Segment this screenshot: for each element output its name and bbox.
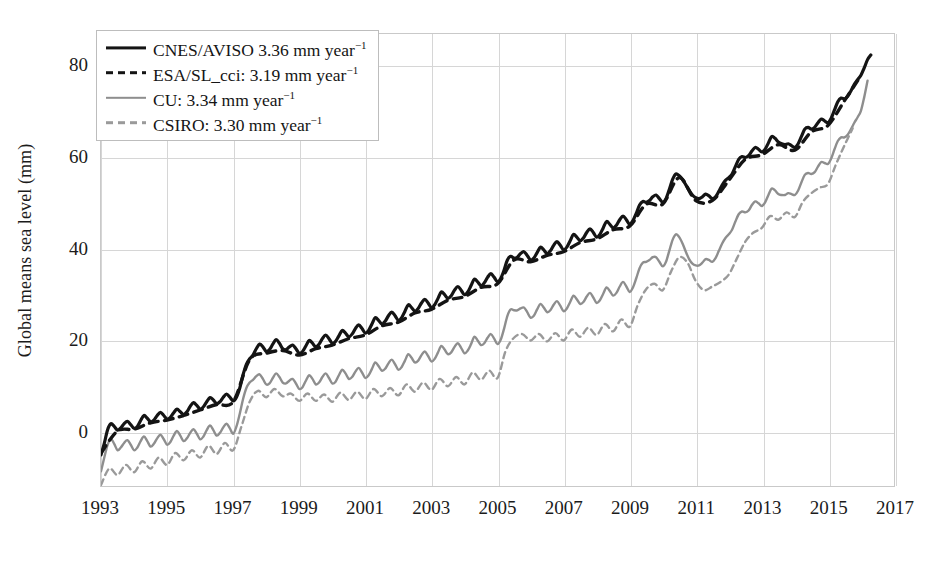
chart-legend: CNES/AVISO 3.36 mm year−1ESA/SL_cci: 3.1… xyxy=(96,30,379,141)
x-tick-label: 1999 xyxy=(280,497,318,519)
legend-label: ESA/SL_cci: 3.19 mm year−1 xyxy=(153,61,358,85)
x-tick-label: 2003 xyxy=(412,497,450,519)
x-axis-tick-labels: 1993199519971999200120032005200720092011… xyxy=(0,497,951,537)
chart-figure: Global means sea level (mm) 020406080 19… xyxy=(0,0,951,565)
x-tick-label: 2005 xyxy=(479,497,517,519)
x-tick-label: 1995 xyxy=(147,497,185,519)
x-tick-label: 2017 xyxy=(876,497,914,519)
legend-label: CU: 3.34 mm year−1 xyxy=(153,86,295,110)
x-tick-label: 1993 xyxy=(81,497,119,519)
x-tick-label: 2007 xyxy=(545,497,583,519)
y-tick-label: 60 xyxy=(48,146,88,168)
legend-key-icon xyxy=(106,42,146,54)
legend-key-icon xyxy=(106,92,146,104)
x-tick-label: 1997 xyxy=(214,497,252,519)
legend-key-icon xyxy=(106,117,146,129)
y-tick-label: 80 xyxy=(48,54,88,76)
x-tick-label: 2001 xyxy=(346,497,384,519)
gridline-vertical xyxy=(896,34,897,486)
legend-label: CSIRO: 3.30 mm year−1 xyxy=(153,111,322,135)
y-axis-tick-labels: 020406080 xyxy=(42,0,88,565)
legend-item: ESA/SL_cci: 3.19 mm year−1 xyxy=(106,63,367,82)
legend-label: CNES/AVISO 3.36 mm year−1 xyxy=(153,36,367,60)
y-tick-label: 40 xyxy=(48,238,88,260)
x-tick-label: 2013 xyxy=(744,497,782,519)
x-tick-label: 2015 xyxy=(810,497,848,519)
x-tick-label: 2009 xyxy=(611,497,649,519)
legend-key-icon xyxy=(106,67,146,79)
legend-item: CNES/AVISO 3.36 mm year−1 xyxy=(106,38,367,57)
x-tick-label: 2011 xyxy=(678,497,715,519)
y-tick-label: 20 xyxy=(48,329,88,351)
y-tick-label: 0 xyxy=(48,421,88,443)
legend-item: CSIRO: 3.30 mm year−1 xyxy=(106,113,367,132)
legend-item: CU: 3.34 mm year−1 xyxy=(106,88,367,107)
y-axis-title: Global means sea level (mm) xyxy=(6,0,46,500)
